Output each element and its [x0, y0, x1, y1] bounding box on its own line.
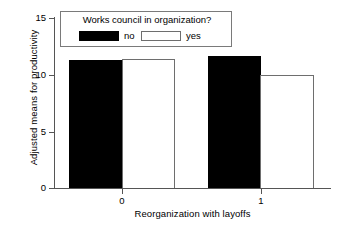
y-tick-label-0: 0: [18, 183, 46, 193]
y-tick-label-5-wrap: 5: [16, 127, 46, 137]
y-tick-label-15: 15: [18, 13, 46, 23]
y-tick-label-10-wrap: 10: [16, 70, 46, 80]
x-axis-title: Reorganization with layoffs: [54, 208, 331, 219]
y-tick-label-15-wrap: 15: [16, 13, 46, 23]
bar-group0-yes: [122, 59, 175, 189]
chart-legend: Works council in organization? no yes: [60, 11, 232, 47]
y-axis-title: Adjusted means for productivity: [28, 3, 39, 193]
legend-swatch-yes: [141, 31, 181, 41]
legend-label-no: no: [124, 30, 135, 42]
y-tick-label-5: 5: [18, 127, 46, 137]
legend-swatch-no: [79, 31, 119, 41]
y-axis-line: [54, 17, 55, 189]
bar-group1-yes: [260, 75, 314, 189]
bar-group1-no: [208, 56, 261, 189]
x-tick-label-1: 1: [241, 195, 281, 206]
x-tick-0: [122, 189, 123, 194]
x-axis-line: [54, 188, 331, 189]
x-tick-1: [261, 189, 262, 194]
legend-entry-no: no: [79, 30, 149, 43]
y-tick-label-0-wrap: 0: [16, 183, 46, 193]
bar-group0-no: [69, 60, 123, 189]
bar-chart-figure: Adjusted means for productivity 15 10 5 …: [0, 0, 342, 227]
y-tick-label-10: 10: [18, 70, 46, 80]
y-tick-5: [49, 132, 55, 133]
legend-label-yes: yes: [186, 30, 201, 42]
y-tick-15: [49, 18, 55, 19]
legend-entry-yes: yes: [141, 30, 221, 43]
x-tick-label-0: 0: [102, 195, 142, 206]
legend-title: Works council in organization?: [61, 14, 233, 26]
y-tick-10: [49, 75, 55, 76]
